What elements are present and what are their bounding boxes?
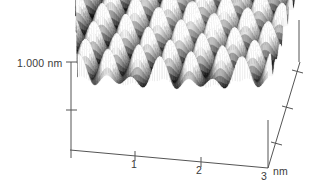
x-axis-line [70,150,268,168]
y-axis-tick-2 [282,106,293,109]
topography-plot-canvas [0,0,320,194]
z-axis-label: 1.000 nm [17,57,62,69]
y-axis-tick-1 [271,142,282,145]
stm-topography-figure: 1.000 nm 1 2 3 nm [0,0,320,194]
x-axis-tick-label-2: 2 [196,164,202,176]
surface-mesh [75,0,299,120]
x-axis-unit-label: nm [273,165,288,177]
x-axis-tick-label-1: 1 [131,158,137,170]
x-axis-tick-label-3: 3 [261,170,267,182]
